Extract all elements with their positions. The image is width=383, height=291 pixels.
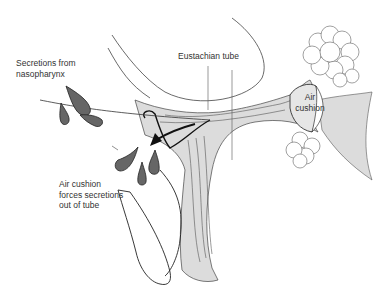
droplet-icon	[138, 162, 146, 185]
droplet-icon	[60, 103, 69, 125]
nasopharynx-outline-inner	[108, 48, 150, 98]
secretion-droplets	[60, 86, 159, 185]
droplet-icon	[149, 150, 159, 174]
mastoid-air-cells-upper	[303, 26, 359, 87]
droplet-icon	[115, 147, 138, 171]
motion-tick	[112, 146, 118, 150]
droplet-icon	[80, 115, 103, 127]
eustachian-tube-diagram	[0, 0, 383, 291]
droplet-icon	[66, 86, 90, 116]
label-air-cushion: Air cushion	[288, 92, 332, 113]
label-secretions-from-nasopharynx: Secretions from nasopharynx	[16, 58, 76, 79]
label-air-cushion-forces-secretions: Air cushion forces secretions out of tub…	[59, 179, 123, 211]
mastoid-air-cells-lower	[286, 132, 320, 168]
label-eustachian-tube: Eustachian tube	[178, 51, 239, 62]
tube-cartilage	[118, 190, 171, 285]
